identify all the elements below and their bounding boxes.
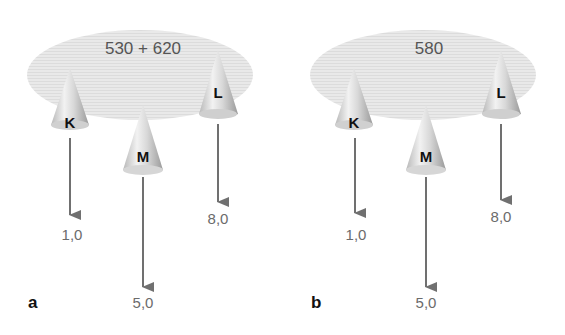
diagram-canvas: 530 + 620 K 1,0 M 5,0 L 8,0 a 580 bbox=[0, 0, 565, 335]
panel-label-b: b bbox=[311, 293, 321, 312]
ellipse-value-text: 530 + 620 bbox=[105, 39, 181, 58]
value-m: 5,0 bbox=[416, 294, 437, 311]
panel-b: 580 K 1,0 M 5,0 L 8,0 b bbox=[310, 30, 536, 312]
value-k: 1,0 bbox=[346, 226, 367, 243]
cone-l-label: L bbox=[213, 84, 222, 101]
panel-label-a: a bbox=[28, 293, 38, 312]
value-l: 8,0 bbox=[491, 208, 512, 225]
cone-l-label: L bbox=[496, 84, 505, 101]
value-k: 1,0 bbox=[62, 226, 83, 243]
ellipse-value-text: 580 bbox=[415, 39, 443, 58]
cone-k-label: K bbox=[65, 114, 76, 131]
cone-m-label: M bbox=[137, 148, 150, 165]
panel-a: 530 + 620 K 1,0 M 5,0 L 8,0 a bbox=[27, 30, 253, 312]
cone-k-label: K bbox=[349, 114, 360, 131]
cone-m-label: M bbox=[420, 148, 433, 165]
value-m: 5,0 bbox=[133, 294, 154, 311]
value-l: 8,0 bbox=[208, 210, 229, 227]
